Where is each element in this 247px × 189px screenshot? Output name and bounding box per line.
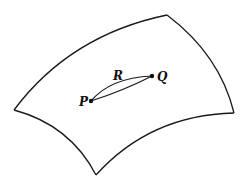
point-Q-dot [150,74,154,78]
surface-diagram: P Q R [0,0,247,189]
diagram-canvas: P Q R [0,0,247,189]
surface-edge-top [14,15,167,110]
surface-edge-right [167,15,234,113]
point-P-dot [89,99,93,103]
label-P: P [78,95,89,109]
label-Q: Q [157,70,168,84]
surface-edge-bottom [96,113,234,175]
surface-edge-left [14,110,96,175]
label-R: R [112,69,123,83]
